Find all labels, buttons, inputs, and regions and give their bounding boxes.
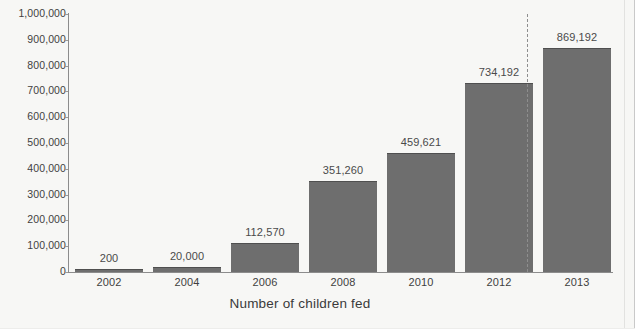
x-axis-title: Number of children fed [0, 296, 600, 311]
x-axis-tick-label-2006: 2006 [231, 276, 299, 288]
x-axis-tick-label-2012: 2012 [465, 276, 533, 288]
chart-page: 0100,000200,000300,000400,000500,000600,… [0, 0, 635, 329]
bar-2013[interactable] [543, 48, 611, 272]
projection-divider-line [527, 14, 528, 272]
x-axis-tick-label-2002: 2002 [75, 276, 143, 288]
x-axis-tick-label-2008: 2008 [309, 276, 377, 288]
x-axis-tick-label-2013: 2013 [543, 276, 611, 288]
bar-2006[interactable] [231, 243, 299, 272]
bar-2010[interactable] [387, 153, 455, 272]
bar-2002[interactable] [75, 269, 143, 272]
bar-plot-area: 200200220,0002004112,5702006351,26020084… [0, 0, 635, 329]
bar-2008[interactable] [309, 181, 377, 272]
bar-value-label-2004: 20,000 [142, 250, 232, 262]
bar-value-label-2008: 351,260 [298, 164, 388, 176]
x-axis-tick-label-2010: 2010 [387, 276, 455, 288]
bar-2004[interactable] [153, 267, 221, 272]
bar-value-label-2012: 734,192 [454, 66, 544, 78]
bar-value-label-2006: 112,570 [220, 226, 310, 238]
bar-2012[interactable] [465, 83, 533, 272]
bar-value-label-2013: 869,192 [532, 31, 622, 43]
bar-value-label-2002: 200 [64, 252, 154, 264]
x-axis-tick-label-2004: 2004 [153, 276, 221, 288]
bar-value-label-2010: 459,621 [376, 136, 466, 148]
